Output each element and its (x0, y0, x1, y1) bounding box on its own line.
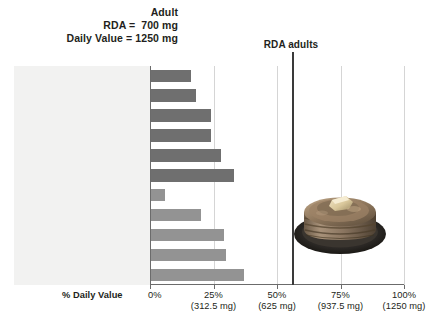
bar-chicken-breast-3-oz[interactable] (151, 89, 197, 102)
header-line-adult: Adult (0, 6, 178, 19)
x-axis-title: % Daily Value (62, 290, 123, 300)
pancakes-photo (292, 182, 388, 256)
bar-trail-mix-cup[interactable] (151, 109, 212, 122)
chart-header: Adult RDA = 700 mg Daily Value = 1250 mg (0, 6, 178, 45)
chart-row: Trail mix, 1⁄2 cup (150, 106, 404, 126)
chart-row: Baked beans, 1 cup (150, 126, 404, 146)
bar-pancakes-2[interactable] (151, 269, 245, 282)
tick-50% (277, 285, 278, 289)
bar-cottage-cheese-1-cup[interactable] (151, 229, 225, 242)
header-line-rda: RDA = 700 mg (0, 19, 178, 32)
tick-75% (341, 285, 342, 289)
tick-0% (150, 285, 151, 289)
bar-blue-cheese-2-oz[interactable] (151, 189, 166, 202)
chart-row: Chicken breast, 3 oz (150, 86, 404, 106)
y-axis-line (150, 66, 151, 285)
chart-row: Pancakes, 2 (150, 265, 404, 285)
chart-row: Tuna salad, 1⁄2 cup (150, 66, 404, 86)
chart-row: Pork chop, 3 oz (150, 146, 404, 166)
x-tick-percent: 25% (204, 290, 223, 300)
tick-25% (214, 285, 215, 289)
header-line-daily-value: Daily Value = 1250 mg (0, 32, 178, 45)
tick-100% (404, 285, 405, 289)
bar-tuna-salad-cup[interactable] (151, 70, 192, 83)
x-tick-mg: (1250 mg) (364, 301, 426, 311)
x-tick-percent: 100% (392, 290, 416, 300)
bar-baked-beans-1-cup[interactable] (151, 129, 212, 142)
bar-milk-1-cup[interactable] (151, 209, 202, 222)
x-tick-percent: 75% (331, 290, 350, 300)
x-tick-percent: 0% (148, 290, 162, 300)
bar-pork-chop-3-oz[interactable] (151, 149, 222, 162)
rda-adults-annotation-label: RDA adults (245, 39, 337, 50)
x-tick-percent: 50% (268, 290, 287, 300)
category-label-background (14, 66, 150, 285)
bar-fish-3-oz[interactable] (151, 169, 235, 182)
x-tick-label-100%: 100%(1250 mg) (364, 290, 426, 311)
gridline-100% (404, 66, 405, 285)
bar-yogurt-plain-1-cup[interactable] (151, 249, 227, 262)
